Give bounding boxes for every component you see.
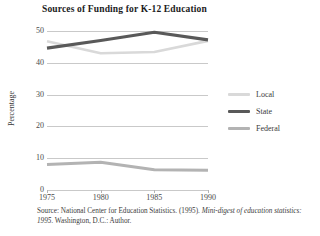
series-line-local [47,41,208,53]
legend-label: State [256,107,272,116]
chart-figure: Sources of Funding for K-12 Education Pe… [0,0,320,236]
x-tick-label: 1975 [25,194,69,202]
x-tick-label: 1985 [132,194,176,202]
legend-swatch-federal [228,127,250,130]
chart-title: Sources of Funding for K-12 Education [42,4,207,14]
source-line1-italic: Mini-digest of [202,207,243,215]
y-tick-label: 0 [4,186,44,194]
y-tick-label: 50 [4,27,44,35]
x-tick-label: 1980 [79,194,123,202]
legend-label: Local [256,90,274,99]
source-line2-plain: Washington, D.C.: Author. [53,217,131,225]
legend-label: Federal [256,124,280,133]
legend-item-local[interactable]: Local [228,86,316,103]
x-tick-label: 1990 [186,194,230,202]
source-line1-plain: Source: National Center for Education St… [37,207,202,215]
legend-item-state[interactable]: State [228,103,316,120]
y-tick-label: 40 [4,59,44,67]
legend-swatch-state [228,110,250,113]
y-tick-label: 20 [4,122,44,130]
legend-swatch-local [228,93,250,96]
source-note: Source: National Center for Education St… [37,206,315,227]
chart-legend: LocalStateFederal [228,86,316,137]
y-tick-label: 30 [4,91,44,99]
legend-item-federal[interactable]: Federal [228,120,316,137]
y-axis-label: Percentage [7,74,16,144]
data-lines [47,31,208,190]
series-line-federal [47,162,208,170]
y-tick-label: 10 [4,154,44,162]
gridline [47,190,208,191]
